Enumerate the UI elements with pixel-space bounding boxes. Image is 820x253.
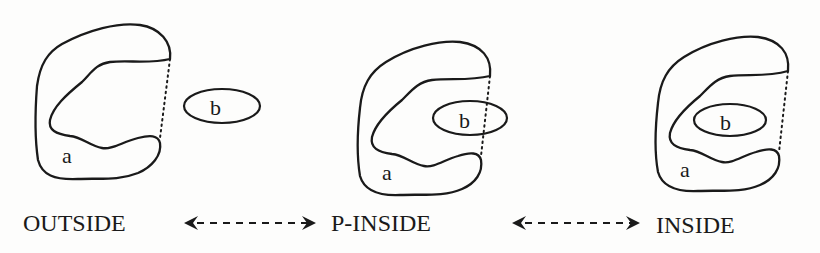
topology-diagram: a b a b a b OUTSIDE P-INSIDE INSIDE xyxy=(0,0,820,253)
region-a-outside xyxy=(36,24,171,179)
region-a-label-inside: a xyxy=(680,157,690,182)
region-a-label-p-inside: a xyxy=(382,160,392,185)
state-label-outside: OUTSIDE xyxy=(23,210,126,236)
arrow-right-head-icon xyxy=(626,216,640,230)
region-a-p-inside xyxy=(358,42,491,195)
state-label-inside: INSIDE xyxy=(656,212,735,238)
region-b-label-outside: b xyxy=(210,95,221,120)
figure-canvas: a b a b a b OUTSIDE P-INSIDE INSIDE xyxy=(0,0,820,253)
region-a-label-outside: a xyxy=(62,143,72,168)
arrow-left-head-icon xyxy=(184,216,198,230)
region-b-outside xyxy=(184,89,260,123)
transition-arrow-p-inside-inside xyxy=(512,216,640,230)
transition-arrow-outside-p-inside xyxy=(184,216,316,230)
region-b-label-p-inside: b xyxy=(459,108,470,133)
panel-inside: a b xyxy=(656,37,789,191)
panel-outside: a b xyxy=(36,24,260,179)
region-b-label-inside: b xyxy=(720,110,731,135)
region-b-p-inside xyxy=(433,101,507,135)
arrow-left-head-icon xyxy=(512,216,526,230)
convex-hull-outside xyxy=(160,59,170,138)
convex-hull-p-inside xyxy=(481,76,490,156)
convex-hull-inside xyxy=(779,71,788,152)
state-label-p-inside: P-INSIDE xyxy=(331,210,431,236)
panel-p-inside: a b xyxy=(358,42,507,195)
